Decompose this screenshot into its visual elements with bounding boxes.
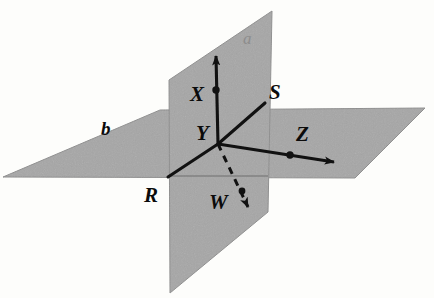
point-label-y: Y	[196, 123, 209, 144]
point-z-dot	[286, 151, 293, 158]
point-label-z: Z	[296, 124, 309, 145]
point-x-dot	[212, 86, 219, 93]
point-label-s: S	[269, 82, 281, 103]
ray-up-arrow	[216, 56, 218, 144]
point-label-x: X	[190, 84, 204, 105]
point-label-r: R	[144, 185, 158, 206]
plane-label-a: a	[243, 30, 252, 47]
point-label-w: W	[209, 192, 228, 213]
figure-canvas: X Y S Z R W a b	[0, 0, 434, 298]
point-w-dot	[239, 188, 246, 195]
geometry-diagram	[0, 0, 434, 298]
plane-label-b: b	[101, 119, 111, 138]
